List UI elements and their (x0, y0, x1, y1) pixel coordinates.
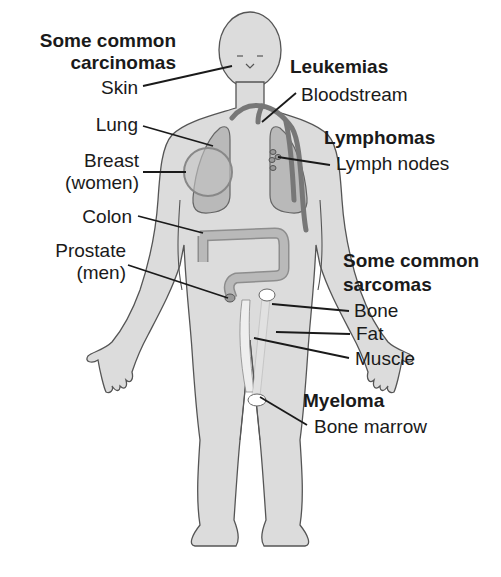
label-fat: Fat (356, 323, 383, 345)
label-bloodstream: Bloodstream (301, 84, 408, 106)
breast-region (184, 148, 232, 196)
label-breast: Breast (40, 150, 139, 172)
label-muscle: Muscle (355, 348, 415, 370)
label-colon: Colon (40, 206, 132, 228)
label-bone-marrow: Bone marrow (314, 416, 427, 438)
femur-head (259, 289, 275, 301)
label-skin: Skin (40, 77, 138, 99)
carcinomas-heading-line1: Some common (20, 30, 176, 52)
cancer-types-diagram: Some common carcinomas Skin Lung Breast … (0, 0, 501, 577)
myeloma-heading: Myeloma (303, 390, 384, 412)
lymphomas-heading: Lymphomas (324, 127, 435, 149)
leukemias-heading: Leukemias (290, 56, 388, 78)
sarcomas-heading-line2: sarcomas (343, 274, 432, 296)
sarcomas-heading-line1: Some common (343, 250, 479, 272)
label-prostate: Prostate (20, 240, 126, 262)
carcinomas-heading-line2: carcinomas (20, 52, 176, 74)
label-breast-women: (women) (40, 172, 139, 194)
label-lymph-nodes: Lymph nodes (336, 153, 449, 175)
label-bone: Bone (354, 300, 398, 322)
label-prostate-men: (men) (20, 262, 126, 284)
label-lung: Lung (40, 114, 138, 136)
